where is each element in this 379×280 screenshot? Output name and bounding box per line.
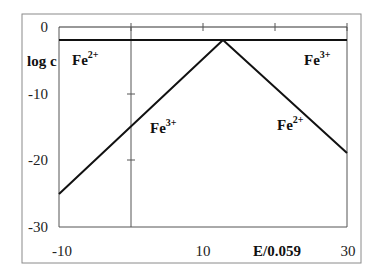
x-tick-label-10: 10 <box>196 243 211 259</box>
x-tick-label-30: 30 <box>341 243 356 259</box>
annotation-fe2-falling: Fe2+ <box>277 114 304 133</box>
annotation-fe3-rising: Fe3+ <box>150 117 177 136</box>
y-tick-label-0: 0 <box>41 19 49 35</box>
chart-figure: 0 -10 -20 -30 log c -10 10 30 E/0.059 Fe… <box>0 0 379 280</box>
annotation-fe2-left: Fe2+ <box>72 49 99 68</box>
x-tick-label-minus-10: -10 <box>52 243 72 259</box>
y-tick-label-minus-20: -20 <box>28 152 48 168</box>
y-tick-label-minus-30: -30 <box>28 219 48 235</box>
y-tick-label-minus-10: -10 <box>28 86 48 102</box>
x-axis-label: E/0.059 <box>253 243 301 259</box>
y-axis-label: log c <box>27 53 57 69</box>
annotation-fe3-right: Fe3+ <box>304 49 331 68</box>
